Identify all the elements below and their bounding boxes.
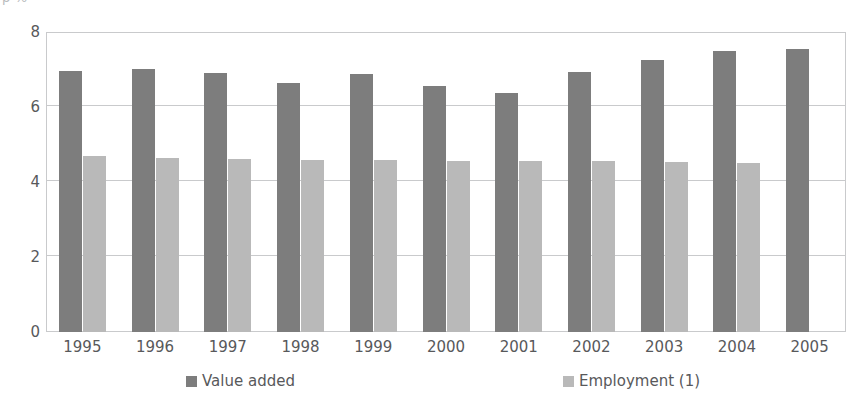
y-axis-tick-label: 2 (6, 250, 40, 265)
gridline (47, 180, 845, 181)
x-axis: 1995199619971998199920002001200220032004… (46, 338, 846, 364)
y-axis-tick-label: 6 (6, 100, 40, 115)
gridline (47, 105, 845, 106)
legend-label-value-added: Value added (202, 372, 295, 390)
x-axis-tick-label: 2000 (410, 338, 483, 356)
x-axis-tick-label: 1996 (119, 338, 192, 356)
x-axis-tick-label: 1998 (264, 338, 337, 356)
chart-legend: Value added Employment (1) (0, 372, 862, 398)
x-axis-tick-label: 2005 (773, 338, 846, 356)
legend-label-employment: Employment (1) (579, 372, 700, 390)
x-axis-tick-label: 2004 (701, 338, 774, 356)
y-axis-tick-label: 8 (6, 25, 40, 40)
plot-area (46, 32, 846, 332)
x-axis-tick-label: 1997 (191, 338, 264, 356)
legend-item-value-added[interactable]: Value added (186, 372, 295, 390)
y-axis-tick-label: 0 (6, 325, 40, 340)
x-axis-tick-label: 1995 (46, 338, 119, 356)
x-axis-tick-label: 1999 (337, 338, 410, 356)
bar-chart: 02468 1995199619971998199920002001200220… (0, 0, 862, 408)
y-axis-tick-label: 4 (6, 175, 40, 190)
legend-swatch-employment (563, 376, 574, 387)
x-axis-tick-label: 2001 (482, 338, 555, 356)
legend-swatch-value-added (186, 376, 197, 387)
gridline (47, 255, 845, 256)
x-axis-tick-label: 2003 (628, 338, 701, 356)
x-axis-tick-label: 2002 (555, 338, 628, 356)
legend-item-employment[interactable]: Employment (1) (563, 372, 700, 390)
y-axis: 02468 (0, 32, 40, 332)
